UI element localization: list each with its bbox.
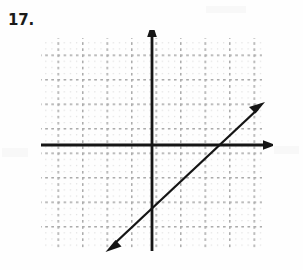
- y-axis-arrowhead-up-icon: [147, 30, 157, 37]
- x-axis-arrowhead-right-icon: [263, 140, 273, 150]
- paper-speckle-right: [274, 146, 299, 154]
- paper-speckle-left: [2, 148, 28, 157]
- problem-number-label: 17.: [8, 11, 34, 29]
- coordinate-plane-svg: [33, 30, 273, 262]
- worksheet-page: 17.: [0, 0, 303, 270]
- paper-speckle-top: [206, 6, 246, 13]
- coordinate-plane-figure: [33, 30, 273, 262]
